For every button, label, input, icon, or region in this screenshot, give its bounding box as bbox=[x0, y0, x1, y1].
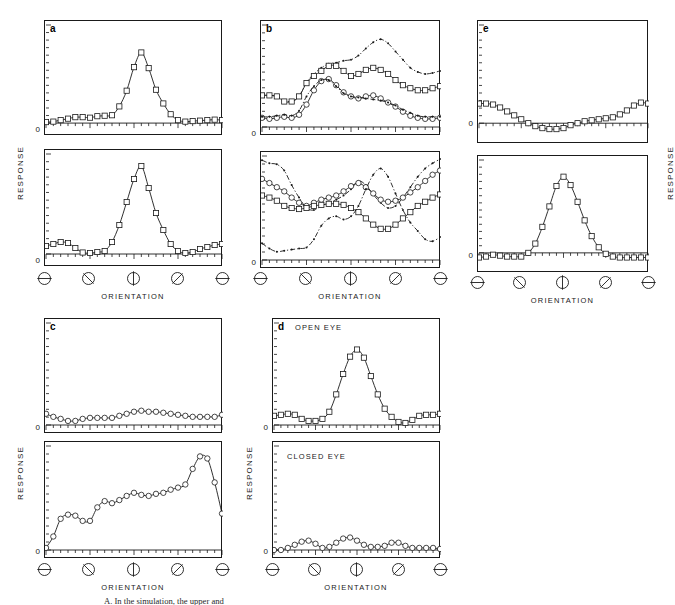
panel-a-bottom-svg bbox=[45, 150, 223, 267]
panel-d-y-axis-label: RESPONSE bbox=[245, 446, 254, 500]
figure-caption: A. In the simulation, the upper and bbox=[104, 596, 664, 605]
panel-c-top-zero-label: 0 bbox=[28, 424, 40, 432]
orientation-tick-icon-oblique-45 bbox=[391, 562, 406, 577]
panel-e-top-plot: e bbox=[477, 20, 648, 143]
panel-e-x-axis-icons bbox=[477, 275, 648, 293]
orientation-tick-icon-oblique-135 bbox=[81, 562, 96, 577]
panel-c-top-svg bbox=[45, 319, 223, 434]
panel-d-top-zero-label: 0 bbox=[256, 424, 268, 432]
panel-e-bottom-plot bbox=[477, 155, 648, 272]
panel-d-open-eye-label: OPEN EYE bbox=[295, 323, 342, 332]
orientation-tick-icon-horizontal-0 bbox=[265, 562, 280, 577]
panel-b-bottom-svg bbox=[261, 152, 441, 269]
panel-a-letter: a bbox=[50, 24, 56, 34]
panel-c-bottom-svg bbox=[45, 442, 223, 559]
panel-b-bottom-zero-label: 0 bbox=[244, 259, 256, 267]
panel-c-x-axis-icons bbox=[44, 562, 222, 580]
orientation-tick-icon-oblique-45 bbox=[170, 562, 185, 577]
panel-d-closed-eye-label: CLOSED EYE bbox=[287, 452, 346, 461]
panel-a-top-zero-label: 0 bbox=[28, 126, 40, 134]
panel-b-top-svg bbox=[261, 21, 441, 136]
orientation-tick-icon-horizontal-180 bbox=[641, 275, 656, 290]
panel-c-letter: c bbox=[50, 322, 56, 332]
orientation-tick-icon-horizontal-180 bbox=[215, 562, 230, 577]
orientation-tick-icon-oblique-45 bbox=[170, 271, 185, 286]
panel-d-x-axis-icons bbox=[272, 562, 440, 580]
orientation-tick-icon-vertical-90 bbox=[555, 275, 570, 290]
panel-b-letter: b bbox=[266, 24, 272, 34]
panel-c-bottom-zero-label: 0 bbox=[28, 548, 40, 556]
panel-b-x-axis-label: ORIENTATION bbox=[260, 292, 440, 301]
panel-d-x-axis-label: ORIENTATION bbox=[272, 583, 440, 592]
panel-e-letter: e bbox=[483, 24, 489, 34]
orientation-tick-icon-oblique-135 bbox=[298, 271, 313, 286]
panel-a-y-axis-label: RESPONSE bbox=[16, 146, 25, 200]
orientation-tick-icon-vertical-90 bbox=[343, 271, 358, 286]
orientation-tick-icon-oblique-135 bbox=[307, 562, 322, 577]
panel-d-bottom-plot: CLOSED EYE bbox=[272, 441, 440, 558]
orientation-tick-icon-horizontal-0 bbox=[253, 271, 268, 286]
panel-e-top-svg bbox=[478, 21, 649, 144]
panel-c-bottom-plot bbox=[44, 441, 222, 558]
panel-a-x-axis-label: ORIENTATION bbox=[44, 292, 222, 301]
orientation-tick-icon-horizontal-180 bbox=[433, 271, 448, 286]
orientation-tick-icon-vertical-90 bbox=[126, 562, 141, 577]
panel-c-y-axis-label: RESPONSE bbox=[16, 446, 25, 500]
panel-c-top-plot: c bbox=[44, 318, 222, 433]
orientation-tick-icon-oblique-45 bbox=[388, 271, 403, 286]
panel-b-x-axis-icons bbox=[260, 271, 440, 289]
panel-c-x-axis-label: ORIENTATION bbox=[44, 583, 222, 592]
panel-b-bottom-plot bbox=[260, 151, 440, 268]
panel-e-top-zero-label: 0 bbox=[461, 120, 473, 128]
orientation-tick-icon-horizontal-0 bbox=[37, 271, 52, 286]
panel-d-bottom-zero-label: 0 bbox=[256, 548, 268, 556]
panel-b-top-zero-label: 0 bbox=[244, 130, 256, 138]
panel-e-bottom-svg bbox=[478, 156, 649, 273]
panel-a-bottom-zero-label: 0 bbox=[28, 257, 40, 265]
orientation-tick-icon-vertical-90 bbox=[349, 562, 364, 577]
orientation-tick-icon-horizontal-0 bbox=[37, 562, 52, 577]
orientation-tick-icon-oblique-45 bbox=[598, 275, 613, 290]
panel-d-top-plot: d OPEN EYE bbox=[272, 318, 440, 433]
panel-e-y-axis-label: RESPONSE bbox=[666, 146, 675, 200]
orientation-tick-icon-oblique-135 bbox=[81, 271, 96, 286]
panel-a-top-plot: a bbox=[44, 20, 222, 135]
panel-e-x-axis-label: ORIENTATION bbox=[477, 296, 648, 305]
orientation-tick-icon-horizontal-180 bbox=[215, 271, 230, 286]
orientation-tick-icon-oblique-135 bbox=[512, 275, 527, 290]
orientation-tick-icon-vertical-90 bbox=[126, 271, 141, 286]
panel-a-bottom-plot bbox=[44, 149, 222, 266]
panel-b-top-plot: b bbox=[260, 20, 440, 135]
panel-a-top-svg bbox=[45, 21, 223, 136]
orientation-tick-icon-horizontal-0 bbox=[470, 275, 485, 290]
panel-a-x-axis-icons bbox=[44, 271, 222, 289]
panel-d-letter: d bbox=[278, 322, 284, 332]
panel-d-top-svg bbox=[273, 319, 441, 434]
orientation-tick-icon-horizontal-180 bbox=[433, 562, 448, 577]
panel-e-bottom-zero-label: 0 bbox=[461, 252, 473, 260]
